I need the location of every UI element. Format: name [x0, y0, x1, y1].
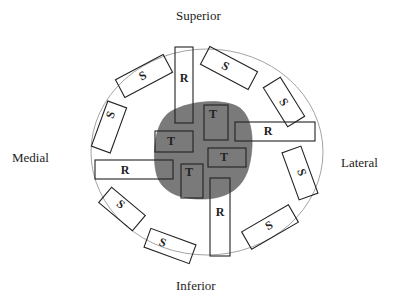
radial-box-label: R [121, 163, 130, 177]
shave-box-6: S [99, 187, 146, 231]
shave-box-1: S [115, 54, 172, 97]
shave-box-7: S [144, 228, 196, 263]
svg-text:S: S [263, 217, 276, 233]
shave-box-2: S [200, 46, 257, 89]
radial-box-label: R [216, 205, 225, 219]
tumor-box-label: T [209, 107, 217, 121]
tumor-box-label: T [220, 150, 228, 164]
radial-box-label: R [264, 124, 273, 138]
shave-box-8: S [242, 205, 299, 249]
svg-text:S: S [114, 197, 128, 212]
svg-text:S: S [157, 235, 168, 251]
specimen-diagram: R R R R T T T T S S S S [0, 0, 395, 300]
label-lateral: Lateral [341, 155, 378, 171]
label-superior: Superior [176, 8, 221, 24]
tumor-box-label: T [185, 165, 193, 179]
radial-box-label: R [180, 71, 189, 85]
svg-text:S: S [103, 109, 119, 120]
svg-text:S: S [136, 68, 149, 84]
label-medial: Medial [12, 150, 49, 166]
svg-text:S: S [219, 58, 232, 74]
shave-box-5: S [282, 146, 318, 200]
shave-box-3: S [263, 77, 304, 127]
svg-text:S: S [294, 167, 310, 178]
label-inferior: Inferior [176, 278, 216, 294]
tumor-box-label: T [167, 134, 175, 148]
svg-text:S: S [276, 95, 292, 108]
shave-box-4: S [91, 101, 126, 153]
